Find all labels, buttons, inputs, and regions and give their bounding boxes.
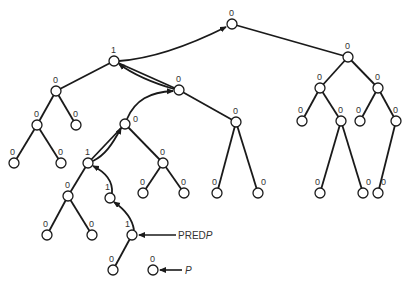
node-balance-label: 0	[261, 177, 266, 187]
node-balance-label: 0	[356, 105, 361, 115]
tree-node: 0	[174, 74, 184, 95]
node-balance-label: 0	[10, 147, 15, 157]
node-balance-label: 0	[233, 106, 238, 116]
tree-node: 0	[148, 254, 158, 275]
node-circle	[87, 230, 97, 240]
node-balance-label: 1	[125, 219, 130, 229]
node-circle	[358, 188, 368, 198]
node-circle	[212, 188, 222, 198]
node-circle	[51, 86, 61, 96]
tree-edge	[37, 91, 56, 125]
node-circle	[373, 188, 383, 198]
node-balance-label: 0	[212, 177, 217, 187]
tree-node: 0	[315, 72, 325, 93]
node-circle	[373, 83, 383, 93]
node-balance-label: 0	[34, 109, 39, 119]
tree-node: 0	[231, 106, 241, 127]
node-circle	[315, 188, 325, 198]
node-balance-label: 0	[73, 109, 78, 119]
tree-svg: PREDPP 010000000010010000100000000000000	[0, 0, 409, 285]
node-circle	[315, 83, 325, 93]
node-balance-label: 0	[317, 72, 322, 82]
threaded-tree-diagram: PREDPP 010000000010010000100000000000000	[0, 0, 409, 285]
node-balance-label: 1	[111, 45, 116, 55]
node-circle	[83, 158, 93, 168]
node-balance-label: 0	[345, 41, 350, 51]
node-circle	[148, 265, 158, 275]
node-circle	[297, 116, 307, 126]
tree-edge	[56, 91, 76, 125]
tree-edge	[125, 124, 163, 163]
node-circle	[336, 116, 346, 126]
node-balance-label: 0	[133, 114, 138, 124]
node-circle	[343, 52, 353, 62]
tree-node: 0	[343, 41, 353, 62]
node-balance-label: 0	[43, 219, 48, 229]
tree-edge	[232, 24, 348, 57]
node-circle	[138, 188, 148, 198]
tree-node: 0	[51, 75, 61, 96]
node-balance-label: 0	[109, 254, 114, 264]
node-circle	[227, 19, 237, 29]
node-circle	[391, 116, 401, 126]
node-balance-label: 0	[53, 75, 58, 85]
tree-edge	[217, 122, 236, 193]
node-circle	[9, 158, 19, 168]
pointer-predp-label: PREDP	[178, 230, 213, 241]
tree-edge	[113, 235, 132, 270]
node-circle	[158, 158, 168, 168]
tree-edge	[68, 163, 88, 196]
node-balance-label: 0	[381, 177, 386, 187]
node-circle	[71, 120, 81, 130]
node-circle	[105, 193, 115, 203]
tree-node: 0	[158, 147, 168, 168]
tree-edge	[37, 125, 61, 163]
tree-node: 1	[83, 147, 93, 168]
node-circle	[253, 188, 263, 198]
tree-edge	[56, 61, 114, 91]
node-balance-label: 0	[65, 180, 70, 190]
node-balance-label: 0	[338, 105, 343, 115]
node-balance-label: 0	[393, 105, 398, 115]
tree-edge	[348, 57, 378, 88]
node-balance-label: 0	[298, 105, 303, 115]
node-balance-label: 0	[150, 254, 155, 264]
node-balance-label: 0	[315, 177, 320, 187]
pointer-p-label: P	[185, 265, 192, 276]
node-circle	[174, 85, 184, 95]
thread-arrow	[114, 202, 134, 230]
node-circle	[231, 117, 241, 127]
node-circle	[42, 230, 52, 240]
node-balance-label: 0	[176, 74, 181, 84]
node-balance-label: 0	[181, 177, 186, 187]
tree-edge	[14, 125, 37, 163]
node-balance-label: 1	[85, 147, 90, 157]
node-circle	[56, 158, 66, 168]
tree-node: 0	[227, 8, 237, 29]
tree-edge	[47, 196, 68, 235]
tree-edge	[320, 57, 348, 88]
tree-node: 1	[105, 182, 115, 203]
tree-edge	[68, 196, 92, 235]
tree-node: 1	[109, 45, 119, 66]
node-circle	[127, 230, 137, 240]
node-circle	[32, 120, 42, 130]
node-balance-label: 0	[229, 8, 234, 18]
node-balance-label: 0	[375, 72, 380, 82]
node-circle	[179, 188, 189, 198]
node-balance-label: 0	[58, 147, 63, 157]
node-balance-label: 1	[105, 182, 110, 192]
node-balance-label: 0	[89, 219, 94, 229]
node-circle	[120, 119, 130, 129]
node-balance-label: 0	[366, 177, 371, 187]
tree-node: 0	[373, 72, 383, 93]
node-circle	[63, 191, 73, 201]
thread-arrow	[119, 27, 226, 61]
node-circle	[109, 56, 119, 66]
node-circle	[108, 265, 118, 275]
tree-edge	[179, 90, 236, 122]
tree-edge	[341, 121, 363, 193]
tree-edge	[320, 121, 341, 193]
node-circle	[355, 116, 365, 126]
tree-edge	[236, 122, 258, 193]
